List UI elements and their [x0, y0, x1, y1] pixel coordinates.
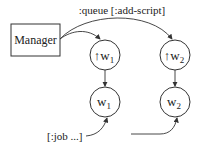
job-input-label: [:job ...] — [47, 130, 82, 142]
edge-input-to-w2 — [131, 118, 177, 134]
edge-label-queue: :queue [:add-script] — [79, 4, 165, 16]
edge-job-to-w1 — [86, 118, 107, 136]
edge-manager-to-upw1 — [60, 31, 100, 39]
edge-manager-to-upw2 — [60, 18, 172, 39]
node-up-w2: ↑w2 — [160, 40, 190, 70]
node-w1: w1 — [90, 87, 120, 117]
node-up-w1: ↑w1 — [90, 40, 120, 70]
diagram-canvas: Manager :queue [:add-script] ↑w1 w1 ↑w2 … — [0, 0, 205, 148]
manager-label: Manager — [14, 33, 57, 47]
manager-node: Manager — [11, 24, 60, 56]
node-w2: w2 — [160, 87, 190, 117]
